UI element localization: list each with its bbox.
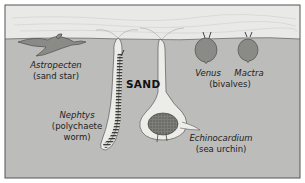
- astropecten-common-name: (sand star): [26, 71, 86, 82]
- sand-burrowers-diagram: Astropecten (sand star) SAND Nephtys (po…: [0, 0, 305, 183]
- astropecten-label: Astropecten (sand star): [26, 60, 86, 82]
- diagram-canvas: [0, 0, 305, 183]
- nephtys-label: Nephtys (polychaete worm): [49, 110, 105, 143]
- nephtys-name: Nephtys: [49, 110, 105, 121]
- astropecten-name: Astropecten: [26, 60, 86, 71]
- mactra-name: Mactra: [231, 68, 267, 79]
- venus-name: Venus: [193, 68, 223, 79]
- echinocardium-common-name: (sea urchin): [184, 144, 258, 155]
- echinocardium-sea-urchin: [148, 113, 178, 135]
- nephtys-common-line1: (polychaete: [49, 121, 105, 132]
- sand-label: SAND: [126, 78, 160, 90]
- bivalves-group-label: (bivalves): [202, 79, 258, 90]
- water-region: [5, 5, 300, 39]
- nephtys-common-line2: worm): [49, 132, 105, 143]
- echinocardium-label: Echinocardium (sea urchin): [184, 133, 258, 155]
- echinocardium-name: Echinocardium: [184, 133, 258, 144]
